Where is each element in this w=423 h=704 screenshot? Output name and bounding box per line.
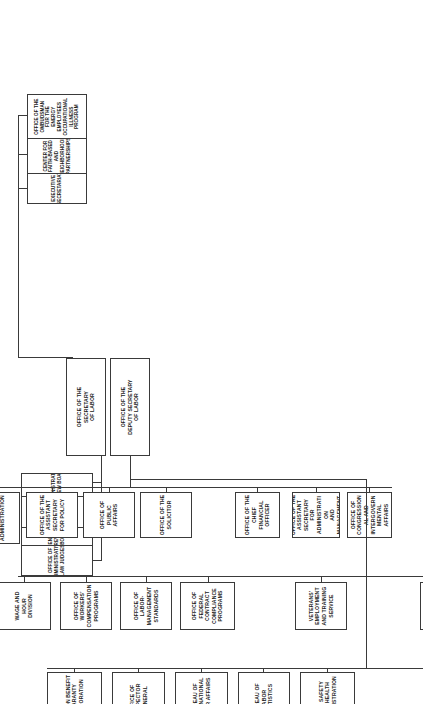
row-c-stub-3: [263, 668, 264, 672]
node-label: BUREAU OFINTERNATIONALLABOR AFFAIRS: [192, 674, 212, 704]
node-office-of-the-deputy-secretary-of-labor[interactable]: OFFICE OF THEDEPUTY SECRETARYOF LABOR: [110, 358, 150, 456]
node-bureau-of-labor-statistics[interactable]: BUREAU OFLABOR STATISTICS: [238, 672, 290, 704]
cell-label: OFFICE OF THE OMBUDSMANFOR THE ENERGY EM…: [34, 96, 80, 137]
connector-adjudicatory-stub-1: [93, 560, 101, 561]
row-c-stub-4: [201, 668, 202, 672]
node-label: OFFICE OFFEDERAL CONTRACTCOMPLIANCEPROGR…: [191, 584, 224, 628]
node-label: OFFICE OF THEASSISTANT SECRETARYFOR ADMI…: [292, 494, 340, 536]
node-label: VETERANS'EMPLOYMENTAND TRAININGSERVICE: [308, 584, 334, 628]
node-label: OFFICE OF THEDEPUTY SECRETARYOF LABOR: [120, 360, 140, 454]
node-mine-safety-and-health-administration[interactable]: MINE SAFETYAND HEALTHADMINISTRATION: [300, 672, 355, 704]
connector-secretariat-bus: [18, 115, 19, 189]
row-b-lower-rail: [321, 576, 423, 577]
connector-secretariat-stub-2: [18, 154, 27, 155]
row-b-rail-join: [366, 479, 367, 577]
connector-secretariat-stub-3: [18, 115, 27, 116]
row-b-stub-6: [24, 576, 25, 582]
connector-secretariat-to-secretary: [18, 188, 19, 358]
node-label: MINE SAFETYAND HEALTHADMINISTRATION: [318, 674, 338, 704]
node-label: BUREAU OFLABOR STATISTICS: [254, 674, 274, 704]
node-employee-benefits-security-administration[interactable]: EMPLOYEEBENEFITS SECURITYADMINISTRATION: [0, 492, 20, 544]
node-office-of-inspector-general[interactable]: OFFICE OFINSPECTORGENERAL: [112, 672, 165, 704]
node-label: OFFICE OF THECHIEF FINANCIALOFFICER: [244, 494, 270, 536]
node-label: OFFICE OFPUBLIC AFFAIRS: [99, 494, 119, 536]
row-a-stub-0: [369, 487, 370, 492]
node-label: OFFICE OF THESOLICITOR: [159, 494, 172, 536]
spine-main-vertical: [130, 479, 366, 480]
connector-secretary-top-riser: [18, 357, 73, 358]
cell-label: EXECUTIVE SECRETARIAT: [51, 173, 63, 203]
group-cell-office-of-the-ombudsman-energy-employees[interactable]: OFFICE OF THE OMBUDSMANFOR THE ENERGY EM…: [28, 95, 86, 138]
node-office-of-congressional-and-intergovernmental-affairs[interactable]: OFFICE OFCONGRESSIONAL ANDINTERGOVERNMEN…: [347, 492, 392, 538]
node-label: WAGE AND HOURDIVISION: [14, 584, 34, 628]
node-label: OFFICE OFLABOR-MANAGEMENTSTANDARDS: [133, 584, 159, 628]
node-office-of-the-secretary-of-labor[interactable]: OFFICE OF THESECRETARYOF LABOR: [66, 358, 106, 456]
node-label: EMPLOYEEBENEFITS SECURITYADMINISTRATION: [0, 494, 6, 542]
row-c-stub-6: [74, 668, 75, 672]
connector-secretariat-stub-1: [18, 188, 27, 189]
node-office-of-the-solicitor[interactable]: OFFICE OF THESOLICITOR: [140, 492, 192, 538]
row-c-stub-5: [138, 668, 139, 672]
node-label: OFFICE OF THEASSISTANT SECRETARYFOR POLI…: [39, 494, 65, 536]
connector-adjudicatory-stub-4: [93, 482, 101, 483]
node-office-of-public-affairs[interactable]: OFFICE OFPUBLIC AFFAIRS: [83, 492, 135, 538]
node-pension-benefit-guaranty-corporation[interactable]: PENSION BENEFITGUARANTYCORPORATION: [47, 672, 102, 704]
row-a-rail: [52, 487, 392, 488]
node-wage-and-hour-division[interactable]: WAGE AND HOURDIVISION: [0, 582, 51, 630]
node-label: OFFICE OFCONGRESSIONAL ANDINTERGOVERNMEN…: [350, 494, 389, 536]
node-office-of-workers-compensation-programs[interactable]: OFFICE OFWORKERS'COMPENSATIONPROGRAMS: [60, 582, 112, 630]
group-cell-executive-secretariat[interactable]: EXECUTIVE SECRETARIAT: [28, 173, 86, 203]
node-veterans-employment-and-training-service[interactable]: VETERANS'EMPLOYMENTAND TRAININGSERVICE: [295, 582, 347, 630]
row-a-stub-3: [166, 487, 167, 492]
node-office-of-labor-management-standards[interactable]: OFFICE OFLABOR-MANAGEMENTSTANDARDS: [120, 582, 172, 630]
group-cell-office-of-administrative-law-judges[interactable]: OFFICE OF ADMINISTRATIVELAW JUDGES: [22, 545, 92, 575]
row-c-stub-2: [327, 668, 328, 672]
node-label: OFFICE OFINSPECTORGENERAL: [129, 674, 149, 704]
node-office-of-the-assistant-secretary-for-policy[interactable]: OFFICE OF THEASSISTANT SECRETARYFOR POLI…: [26, 492, 78, 538]
cell-label: OFFICE OF ADMINISTRATIVELAW JUDGES: [48, 545, 65, 575]
row-a-stub-4: [109, 487, 110, 492]
row-b-stub-3: [208, 576, 209, 582]
row-b-rail: [18, 576, 366, 577]
row-b-stub-5: [86, 576, 87, 582]
row-b-stub-4: [146, 576, 147, 582]
row-a-stub-2: [257, 487, 258, 492]
spine-deputy-to-rows: [130, 455, 131, 480]
node-label: PENSION BENEFITGUARANTYCORPORATION: [65, 674, 85, 704]
group-cell-center-for-faith-based-and-neighborhood-partnerships[interactable]: CENTER FOR FAITH-BASED ANDNEIGHBORHOOD P…: [28, 138, 86, 173]
row-c-rail-join: [366, 577, 367, 669]
cell-label: CENTER FOR FAITH-BASED ANDNEIGHBORHOOD P…: [43, 138, 72, 173]
node-label: OFFICE OF THESECRETARYOF LABOR: [76, 360, 96, 454]
node-office-of-federal-contract-compliance-programs[interactable]: OFFICE OFFEDERAL CONTRACTCOMPLIANCEPROGR…: [180, 582, 235, 630]
node-office-of-the-assistant-secretary-for-administration-and-management[interactable]: OFFICE OF THEASSISTANT SECRETARYFOR ADMI…: [292, 492, 340, 538]
node-label: OFFICE OFWORKERS'COMPENSATIONPROGRAMS: [73, 584, 99, 628]
row-a-stub-1: [316, 487, 317, 492]
node-bureau-of-international-labor-affairs[interactable]: BUREAU OFINTERNATIONALLABOR AFFAIRS: [175, 672, 228, 704]
node-office-of-the-chief-financial-officer[interactable]: OFFICE OF THECHIEF FINANCIALOFFICER: [235, 492, 280, 538]
row-a-rail-top: [0, 487, 54, 488]
org-chart-canvas: OFFICE OF THESECRETARYOF LABOR OFFICE OF…: [0, 0, 423, 704]
row-a-rail-join: [130, 479, 131, 488]
group-executive-secretariat: EXECUTIVE SECRETARIAT CENTER FOR FAITH-B…: [27, 94, 87, 204]
